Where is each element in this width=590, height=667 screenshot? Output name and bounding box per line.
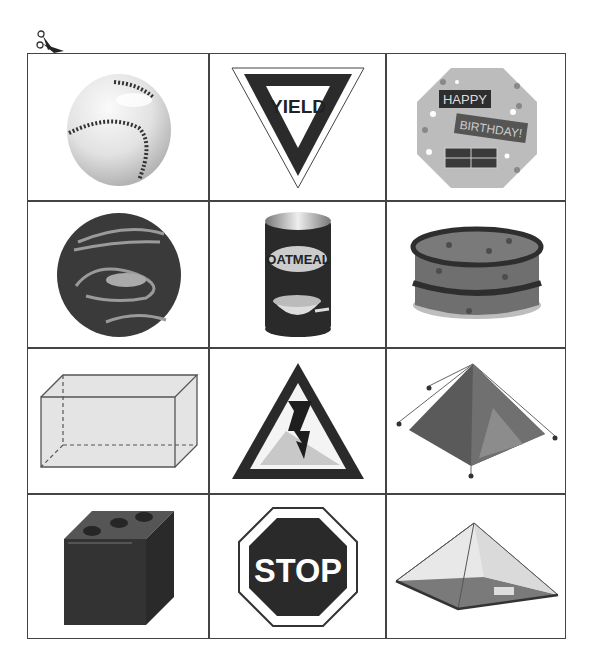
stop-label: STOP — [254, 551, 342, 589]
marbled-ball-image — [56, 212, 182, 338]
card-die[interactable] — [28, 494, 209, 640]
card-glass-pyramid[interactable] — [386, 494, 567, 640]
card-rectangular-prism[interactable] — [28, 348, 209, 494]
glass-pyramid-image — [394, 521, 560, 613]
layer-cake-image — [409, 225, 545, 325]
stop-sign-image: STOP — [237, 506, 359, 628]
card-layer-cake[interactable] — [386, 201, 567, 348]
card-pyramid-tent[interactable] — [386, 348, 567, 494]
oatmeal-label: OATMEAL — [266, 252, 329, 267]
card-baseball[interactable] — [28, 54, 209, 201]
card-yield-sign[interactable]: YIELD — [209, 54, 386, 201]
yield-label: YIELD — [270, 96, 326, 117]
birthday-card-image: HAPPY BIRTHDAY! — [415, 66, 539, 190]
card-high-voltage-sign[interactable] — [209, 348, 386, 494]
card-grid: YIELD HAPPY BIRTHDAY! — [27, 53, 566, 639]
yield-sign-image: YIELD — [230, 66, 366, 190]
card-stop-sign[interactable]: STOP — [209, 494, 386, 640]
die-image — [62, 509, 176, 625]
baseball-image — [59, 68, 179, 188]
card-oatmeal-can[interactable]: OATMEAL — [209, 201, 386, 348]
scissors-icon — [36, 30, 66, 54]
oatmeal-can-image: OATMEAL — [263, 211, 333, 339]
rectangular-prism-image — [39, 373, 199, 469]
happy-label: HAPPY — [442, 92, 486, 107]
high-voltage-sign-image — [230, 361, 366, 481]
card-marbled-ball[interactable] — [28, 201, 209, 348]
pyramid-tent-image — [395, 362, 559, 480]
card-birthday[interactable]: HAPPY BIRTHDAY! — [386, 54, 567, 201]
